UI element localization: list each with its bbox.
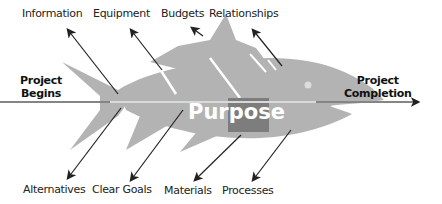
- cause-relationships: Relationships: [209, 7, 278, 20]
- center-label: Purpose: [188, 100, 285, 124]
- cause-materials: Materials: [164, 184, 212, 197]
- end-label: Project Completion: [344, 74, 412, 100]
- end-label-line-1: Project: [344, 74, 412, 87]
- fish-shape: [62, 14, 384, 152]
- cause-processes: Processes: [222, 184, 274, 197]
- cause-alternatives: Alternatives: [23, 183, 85, 196]
- arrow-budgets: [192, 28, 203, 36]
- end-label-line-2: Completion: [344, 87, 412, 100]
- start-label: Project Begins: [20, 74, 62, 100]
- arrow-equipment: [131, 30, 162, 70]
- cause-information: Information: [22, 7, 82, 20]
- start-label-line-2: Begins: [20, 87, 62, 100]
- cause-equipment: Equipment: [93, 7, 150, 20]
- cause-budgets: Budgets: [161, 7, 204, 20]
- cause-clear-goals: Clear Goals: [92, 183, 152, 196]
- start-label-line-1: Project: [20, 74, 62, 87]
